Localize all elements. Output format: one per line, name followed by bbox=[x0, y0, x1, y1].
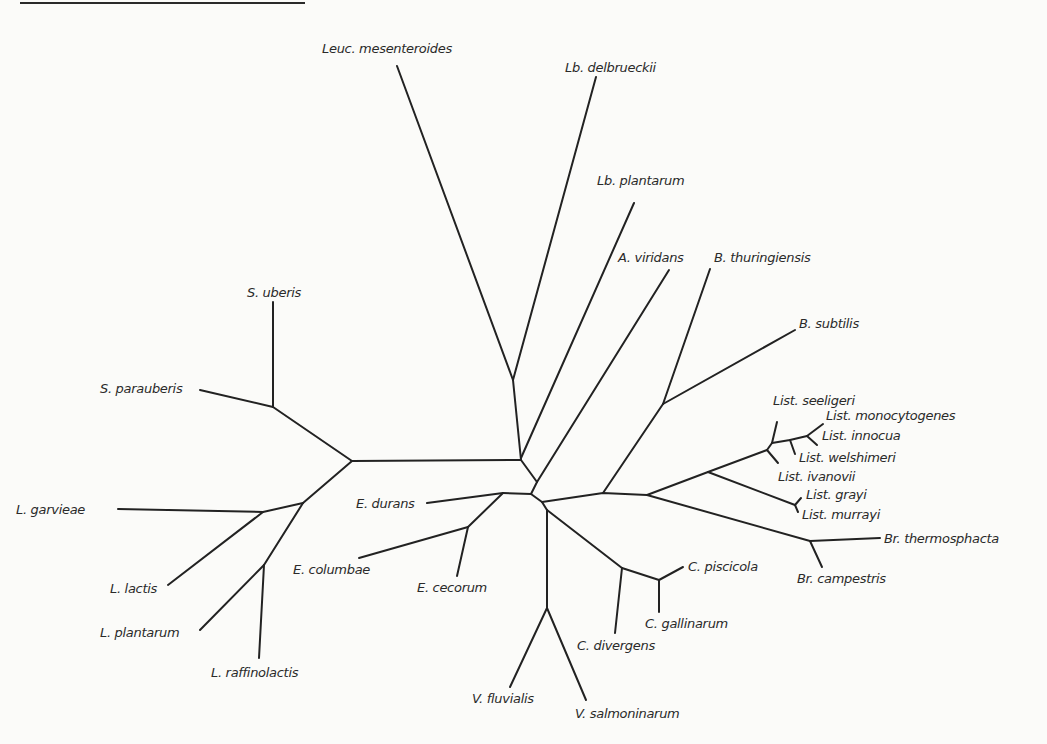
taxon-label-list-monocytogenes: List. monocytogenes bbox=[826, 408, 956, 423]
branch-l-lactis bbox=[168, 512, 263, 585]
taxon-label-leuc-mesenteroides: Leuc. mesenteroides bbox=[322, 41, 452, 56]
branch-l-sub bbox=[264, 503, 303, 565]
taxon-label-b-subtilis: B. subtilis bbox=[799, 316, 859, 331]
taxon-label-br-thermosphacta: Br. thermosphacta bbox=[884, 531, 999, 546]
taxon-label-list-murrayi: List. murrayi bbox=[802, 507, 881, 522]
taxon-label-c-divergens: C. divergens bbox=[577, 638, 655, 653]
branch-strep-node bbox=[273, 407, 352, 461]
branch-list-ivanovii bbox=[767, 450, 778, 463]
branch-v-salmoninarum bbox=[547, 608, 586, 700]
branch-l-raffinolactis bbox=[259, 565, 264, 658]
taxon-label-l-garvieae: L. garvieae bbox=[16, 502, 85, 517]
taxon-label-br-campestris: Br. campestris bbox=[797, 571, 886, 586]
branch-c-piscicola bbox=[659, 567, 683, 580]
branch-leuc bbox=[397, 66, 513, 380]
taxon-label-list-ivanovii: List. ivanovii bbox=[778, 469, 856, 484]
branch-e-durans bbox=[427, 493, 503, 503]
taxon-labels: Leuc. mesenteroidesLb. delbrueckiiLb. pl… bbox=[16, 41, 999, 721]
taxon-label-l-raffinolactis: L. raffinolactis bbox=[211, 665, 299, 680]
branch-upper-trunk bbox=[513, 380, 537, 494]
taxon-label-list-innocua: List. innocua bbox=[822, 428, 901, 443]
taxon-label-v-salmoninarum: V. salmoninarum bbox=[575, 706, 679, 721]
taxon-label-list-grayi: List. grayi bbox=[806, 487, 867, 502]
branch-e-columbae bbox=[359, 527, 468, 558]
taxon-label-list-seeligeri: List. seeligeri bbox=[773, 393, 855, 408]
taxon-label-e-columbae: E. columbae bbox=[293, 562, 370, 577]
taxon-label-list-welshimeri: List. welshimeri bbox=[799, 450, 896, 465]
branch-b-thuringiensis bbox=[663, 269, 710, 404]
branch-c-stem bbox=[547, 510, 659, 580]
branch-lacto-node bbox=[303, 461, 352, 503]
branch-strep-lacto-trunk bbox=[352, 460, 521, 461]
taxon-label-lb-plantarum: Lb. plantarum bbox=[597, 173, 684, 188]
phylogenetic-tree: Leuc. mesenteroidesLb. delbrueckiiLb. pl… bbox=[0, 0, 1047, 744]
branch-v-fluvialis bbox=[510, 608, 547, 687]
taxon-label-b-thuringiensis: B. thuringiensis bbox=[714, 250, 811, 265]
branch-l-garvieae bbox=[118, 503, 303, 512]
branch-l-plantarum bbox=[200, 565, 264, 630]
branch-e-sub bbox=[468, 493, 503, 527]
branch-e-cecorum bbox=[457, 527, 468, 576]
taxon-label-e-cecorum: E. cecorum bbox=[417, 580, 487, 595]
branch-list-murrayi bbox=[795, 505, 798, 512]
branch-lb-plant bbox=[521, 203, 634, 458]
taxon-label-c-gallinarum: C. gallinarum bbox=[645, 616, 728, 631]
branch-br-thermosphacta bbox=[810, 538, 880, 541]
taxon-label-l-plantarum: L. plantarum bbox=[100, 625, 179, 640]
branch-list-monocytogenes bbox=[807, 424, 823, 436]
branch-entero-stem bbox=[503, 493, 531, 494]
tree-branches bbox=[118, 66, 880, 700]
branch-lb-delb bbox=[513, 77, 596, 380]
branch-s-parauberis bbox=[200, 390, 273, 407]
branch-bacillus-stem bbox=[603, 404, 663, 493]
taxon-label-s-uberis: S. uberis bbox=[247, 285, 302, 300]
branch-list-innocua bbox=[807, 436, 817, 445]
branch-list-grayi bbox=[795, 498, 801, 505]
branch-list-upper bbox=[767, 443, 772, 450]
taxon-label-l-lactis: L. lactis bbox=[110, 581, 158, 596]
branch-list-welshimeri bbox=[790, 440, 795, 454]
taxon-label-s-parauberis: S. parauberis bbox=[100, 381, 183, 396]
taxon-label-c-piscicola: C. piscicola bbox=[688, 559, 758, 574]
taxon-label-v-fluvialis: V. fluvialis bbox=[472, 691, 534, 706]
taxon-label-lb-delbrueckii: Lb. delbrueckii bbox=[565, 60, 657, 75]
branch-c-divergens bbox=[615, 568, 622, 633]
branch-right-trunk bbox=[542, 493, 647, 502]
branch-list-seeligeri bbox=[772, 422, 777, 443]
branch-br-campestris bbox=[810, 541, 822, 567]
taxon-label-a-viridans: A. viridans bbox=[617, 250, 684, 265]
taxon-label-e-durans: E. durans bbox=[356, 496, 415, 511]
